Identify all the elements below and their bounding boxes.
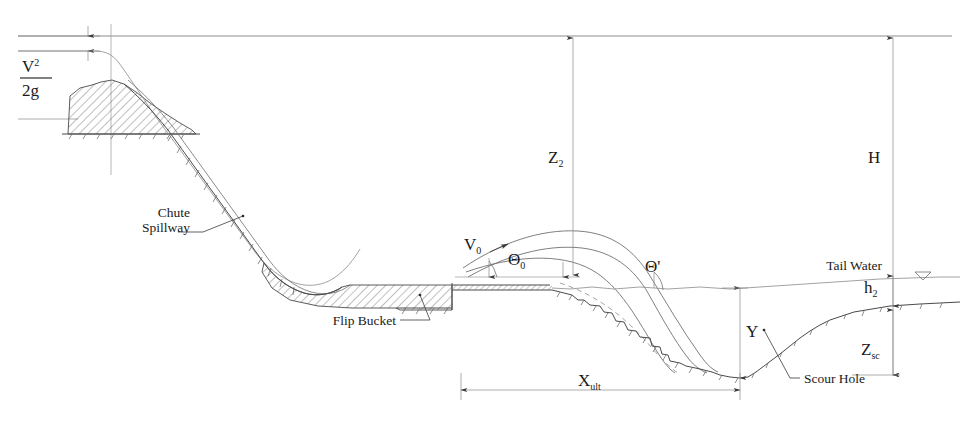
z2-subscript: 2 xyxy=(558,158,563,169)
water-level-triangle-icon xyxy=(915,272,931,280)
jet-angle-symbol: Θ xyxy=(508,250,520,269)
y-label: Y xyxy=(746,322,758,341)
jet-velocity-symbol: V xyxy=(464,235,477,254)
h-symbol: H xyxy=(868,148,880,167)
y-symbol: Y xyxy=(746,322,758,341)
velocity-head-numerator: V xyxy=(22,57,35,76)
velocity-head-exponent: 2 xyxy=(34,57,39,68)
scour-hole-callout xyxy=(764,330,800,378)
zsc-symbol: Z xyxy=(861,340,871,359)
zsc-dimension xyxy=(852,310,900,375)
z2-symbol: Z xyxy=(548,148,558,167)
velocity-head-denominator: 2g xyxy=(22,81,40,100)
h2-subscript: 2 xyxy=(873,288,878,299)
svg-text:Xult: Xult xyxy=(578,371,601,392)
zsc-label: Zsc xyxy=(861,340,880,361)
chute-water-surface xyxy=(18,51,360,285)
svg-text:V0: V0 xyxy=(464,235,481,256)
svg-text:h2: h2 xyxy=(864,278,878,299)
velocity-head-label: V2 2g xyxy=(20,57,52,100)
svg-text:Zsc: Zsc xyxy=(861,340,880,361)
chute-spillway-label-line1: Chute xyxy=(158,205,190,220)
zsc-subscript: sc xyxy=(871,350,880,361)
xult-label: Xult xyxy=(578,371,601,392)
xult-symbol: X xyxy=(578,371,590,390)
ogee-crest-structure xyxy=(62,80,200,134)
jet-angle-subscript: 0 xyxy=(520,260,525,271)
h-label: H xyxy=(868,148,880,167)
spillway-schematic-svg: V2 2g xyxy=(0,0,969,425)
svg-text:Θ': Θ' xyxy=(645,257,660,276)
impact-angle-symbol: Θ xyxy=(645,257,657,276)
impact-angle-label: Θ' xyxy=(645,257,660,276)
jet-velocity-subscript: 0 xyxy=(476,245,481,256)
impact-angle-prime: ' xyxy=(657,257,660,276)
jet-trajectory xyxy=(463,231,718,373)
chute-spillway-label-line2: Spillway xyxy=(142,220,190,235)
svg-text:V2: V2 xyxy=(22,57,39,76)
svg-text:Z2: Z2 xyxy=(548,148,563,169)
flip-bucket-label: Flip Bucket xyxy=(333,313,397,328)
apron-hatching xyxy=(452,285,552,290)
jet-velocity-label: V0 xyxy=(464,235,481,256)
h2-label: h2 xyxy=(864,278,878,299)
tail-water-label: Tail Water xyxy=(826,258,882,273)
z2-label: Z2 xyxy=(548,148,563,169)
diagram-canvas: V2 2g xyxy=(0,0,969,425)
y-dimension xyxy=(722,288,748,378)
xult-subscript: ult xyxy=(590,381,601,392)
dam-foundation-ticks xyxy=(69,134,184,139)
scour-hole-label: Scour Hole xyxy=(804,371,865,386)
